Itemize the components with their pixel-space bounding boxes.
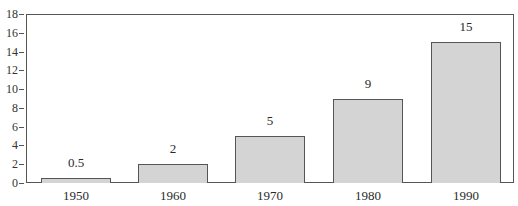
bar-value-label: 2 xyxy=(138,142,208,156)
y-tick-mark xyxy=(19,33,24,34)
bar-chart: 024681012141618 0.525915 195019601970198… xyxy=(0,0,518,206)
bar-value-label: 9 xyxy=(333,77,403,91)
x-tick-label: 1990 xyxy=(431,189,501,203)
y-tick-mark xyxy=(19,164,24,165)
y-tick-mark xyxy=(19,89,24,90)
bar-value-label: 15 xyxy=(431,20,501,34)
y-tick-label: 10 xyxy=(0,83,18,95)
bar-value-label: 0.5 xyxy=(41,156,111,170)
bar-1990 xyxy=(431,42,501,183)
bar-value-label: 5 xyxy=(235,114,305,128)
bar-1970 xyxy=(235,136,305,183)
y-tick-mark xyxy=(19,14,24,15)
y-tick-label: 18 xyxy=(0,8,18,20)
y-tick-mark xyxy=(19,70,24,71)
bar-1960 xyxy=(138,164,208,183)
y-tick-mark xyxy=(19,183,24,184)
y-tick-mark xyxy=(19,127,24,128)
y-tick-mark xyxy=(19,52,24,53)
y-tick-label: 16 xyxy=(0,27,18,39)
y-tick-label: 4 xyxy=(0,139,18,151)
y-tick-label: 12 xyxy=(0,64,18,76)
y-tick-label: 6 xyxy=(0,121,18,133)
x-tick-label: 1970 xyxy=(235,189,305,203)
y-tick-label: 14 xyxy=(0,46,18,58)
y-tick-mark xyxy=(19,108,24,109)
y-tick-label: 2 xyxy=(0,158,18,170)
x-tick-label: 1950 xyxy=(41,189,111,203)
y-tick-mark xyxy=(19,145,24,146)
y-tick-label: 0 xyxy=(0,177,18,189)
bar-1980 xyxy=(333,99,403,184)
y-tick-label: 8 xyxy=(0,102,18,114)
x-tick-label: 1980 xyxy=(333,189,403,203)
bar-1950 xyxy=(41,178,111,183)
x-tick-label: 1960 xyxy=(138,189,208,203)
